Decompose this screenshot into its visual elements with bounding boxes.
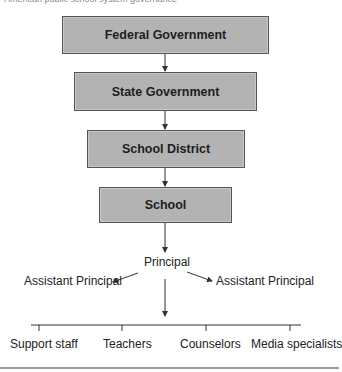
staff-media-specialists-label: Media specialists	[251, 337, 342, 351]
bottom-rule	[0, 367, 339, 369]
staff-support-label: Support staff	[10, 337, 78, 351]
assistant-principal-left-label: Assistant Principal	[24, 274, 122, 288]
principal-label: Principal	[144, 255, 190, 269]
staff-counselors-label: Counselors	[180, 337, 241, 351]
staff-teachers-label: Teachers	[103, 337, 152, 351]
assistant-principal-right-label: Assistant Principal	[216, 274, 314, 288]
arrow-principal-to-assistant-right	[187, 272, 212, 281]
